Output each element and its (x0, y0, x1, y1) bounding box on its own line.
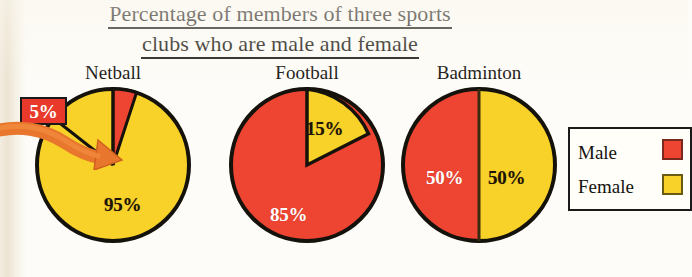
callout-arrow-icon (0, 114, 138, 170)
page-title-line-1: Percentage of members of three sports (108, 2, 452, 29)
legend-swatch-male (662, 139, 683, 160)
pie-chart-badminton: Badminton 50% 50% (400, 62, 558, 257)
badminton-pie-svg (400, 86, 558, 244)
badminton-male-slice (403, 89, 479, 241)
legend-item-female-label: Female (578, 176, 634, 198)
pie-chart-badminton-graphic (400, 86, 558, 244)
legend-item-male: Male (570, 136, 690, 170)
legend-item-male-label: Male (578, 142, 617, 164)
page-title: Percentage of members of three sports cl… (0, 2, 560, 59)
netball-female-label: 95% (104, 194, 141, 216)
pie-chart-football-title: Football (228, 62, 386, 84)
page-title-line-2: clubs who are male and female (141, 32, 419, 59)
football-male-label: 85% (270, 204, 307, 226)
football-female-label: 15% (306, 118, 343, 140)
badminton-male-label: 50% (426, 167, 463, 189)
badminton-female-label: 50% (488, 167, 525, 189)
pie-chart-netball-title: Netball (34, 62, 192, 84)
pie-chart-badminton-title: Badminton (400, 62, 558, 84)
pie-chart-football: Football 15% 85% (228, 62, 386, 257)
badminton-female-slice (479, 89, 555, 241)
legend-item-female: Female (570, 170, 690, 204)
legend: Male Female (568, 127, 692, 211)
legend-swatch-female (662, 174, 683, 195)
